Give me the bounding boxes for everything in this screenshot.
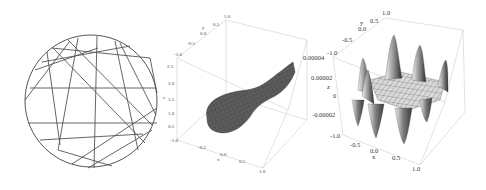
y-axis-label: y <box>202 25 205 30</box>
y-tick: -1.0 <box>327 49 337 56</box>
x-axis-label: x <box>217 157 220 162</box>
z-axis-label: z <box>163 95 166 100</box>
x-tick: 1.0 <box>412 165 420 172</box>
x-tick: 0.5 <box>392 154 400 161</box>
x-tick: 0.0 <box>220 152 227 157</box>
chord-line <box>72 108 157 164</box>
z-tick: 2.5 <box>167 64 174 69</box>
y-tick: 0.5 <box>213 22 220 27</box>
z-tick: 1.5 <box>168 97 175 102</box>
x-tick: 1.0 <box>259 169 266 174</box>
x-tick: -1.0 <box>170 138 178 143</box>
chord-line <box>47 52 60 145</box>
z-tick: 0 <box>333 92 336 99</box>
chord-line <box>120 43 156 115</box>
y-tick: 0.0 <box>200 31 207 36</box>
chord-line <box>35 48 98 70</box>
oscillating-surface-plot: -1.0 -0.5 0.0 y 0.5 1.0 0.00004 0.00002 … <box>300 0 486 190</box>
z-tick: 2.0 <box>168 81 175 86</box>
x-axis-label: x <box>372 153 376 160</box>
z-tick: 0.00002 <box>311 74 332 81</box>
x-tick: -0.5 <box>198 145 206 150</box>
x-tick: -0.5 <box>350 141 360 148</box>
teardrop-surface-graphic: -1.0 -0.5 0.0 y 0.5 1.0 2.5 2.0 z 1.5 1.… <box>155 0 315 190</box>
chord-line <box>40 134 143 140</box>
z-tick: -0.00002 <box>312 111 335 118</box>
y-tick: 1.0 <box>382 9 390 16</box>
oscillating-surface-graphic: -1.0 -0.5 0.0 y 0.5 1.0 0.00004 0.00002 … <box>300 0 486 190</box>
x-tick: -1.0 <box>330 132 340 139</box>
y-tick: 0.0 <box>358 25 366 32</box>
z-tick: 0.5 <box>168 124 175 129</box>
chord-line <box>53 48 145 143</box>
y-tick: 1.0 <box>224 14 231 19</box>
chord-line <box>58 38 78 150</box>
y-tick: -1.0 <box>174 52 182 57</box>
chord-circle-graphic <box>0 0 162 190</box>
chord-line <box>52 48 150 58</box>
x-tick: 0.5 <box>239 159 246 164</box>
chord-line <box>58 150 112 166</box>
y-tick: -0.5 <box>342 36 352 43</box>
teardrop-surface-plot: -1.0 -0.5 0.0 y 0.5 1.0 2.5 2.0 z 1.5 1.… <box>155 0 315 190</box>
z-tick: 0.00004 <box>303 54 325 61</box>
chord-line <box>25 41 70 100</box>
z-axis-label: z <box>327 83 330 90</box>
chord-circle-plot <box>0 0 162 190</box>
y-tick: 0.5 <box>370 17 378 24</box>
z-tick: 1.0 <box>168 111 175 116</box>
y-tick: -0.5 <box>187 41 195 46</box>
